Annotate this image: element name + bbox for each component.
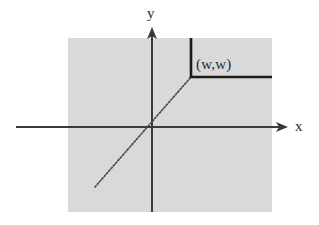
x-axis-label: x — [295, 119, 303, 134]
y-axis-label: y — [147, 6, 155, 21]
diagram-canvas — [0, 0, 319, 225]
corner-point-label: (w,w) — [196, 57, 231, 72]
quadrant-shading-rect — [68, 38, 272, 212]
math-diagram: y x (w,w) — [0, 0, 319, 225]
